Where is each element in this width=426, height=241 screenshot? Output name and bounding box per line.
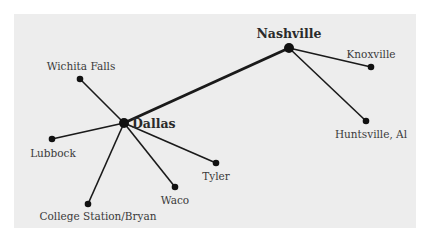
hub-link-edge <box>124 48 289 123</box>
node-knoxville <box>368 64 375 71</box>
labels: Wichita FallsLubbockCollege Station/Brya… <box>30 26 408 222</box>
node-wichita-falls <box>77 76 84 83</box>
node-college-station <box>85 201 92 208</box>
edge-waco <box>124 123 175 187</box>
node-lubbock <box>49 136 56 143</box>
node-tyler <box>213 160 220 167</box>
label-huntsville: Huntsville, Al <box>335 128 408 140</box>
network-diagram: Wichita FallsLubbockCollege Station/Brya… <box>0 0 426 241</box>
hub-label-nashville: Nashville <box>256 26 321 41</box>
edge-college-station <box>88 123 124 204</box>
node-huntsville <box>363 118 370 125</box>
hub-node-nashville <box>284 43 294 53</box>
label-college-station: College Station/Bryan <box>39 210 156 222</box>
label-knoxville: Knoxville <box>346 48 395 60</box>
hub-label-dallas: Dallas <box>132 116 176 131</box>
node-waco <box>172 184 179 191</box>
label-tyler: Tyler <box>202 170 231 182</box>
label-wichita-falls: Wichita Falls <box>47 60 116 72</box>
label-lubbock: Lubbock <box>30 147 76 159</box>
hub-node-dallas <box>119 118 129 128</box>
edge-lubbock <box>52 123 124 139</box>
label-waco: Waco <box>161 194 189 206</box>
edge-wichita-falls <box>80 79 124 123</box>
